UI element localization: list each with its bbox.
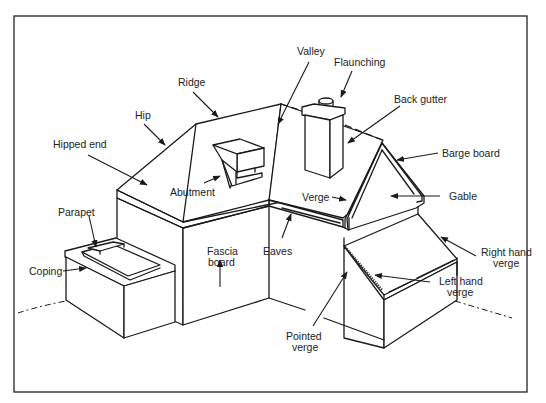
label-left-hand-verge-line2: verge xyxy=(447,286,473,298)
label-hipped-end: Hipped end xyxy=(53,138,107,150)
label-eaves: Eaves xyxy=(263,245,292,257)
label-hip: Hip xyxy=(135,109,151,121)
label-fascia-line2: board xyxy=(208,256,235,268)
label-pointed-verge-line2: verge xyxy=(292,341,318,353)
lower-wing xyxy=(269,207,457,348)
ground-line-right xyxy=(455,301,512,318)
label-parapet: Parapet xyxy=(58,206,95,218)
label-right-hand-verge-line2: verge xyxy=(493,257,519,269)
label-gable: Gable xyxy=(449,190,477,202)
label-coping: Coping xyxy=(29,265,62,277)
chimney-stack xyxy=(302,98,345,178)
roof-terminology-diagram: Ridge Hip Hipped end Abutment Valley Fla… xyxy=(0,0,546,403)
label-back-gutter: Back gutter xyxy=(394,93,448,105)
label-valley: Valley xyxy=(297,45,326,57)
ground-line-left xyxy=(18,301,66,313)
label-flaunching: Flaunching xyxy=(334,56,386,68)
label-verge: Verge xyxy=(302,191,330,203)
label-barge-board: Barge board xyxy=(442,147,500,159)
label-ridge: Ridge xyxy=(178,76,206,88)
label-abutment: Abutment xyxy=(170,186,215,198)
